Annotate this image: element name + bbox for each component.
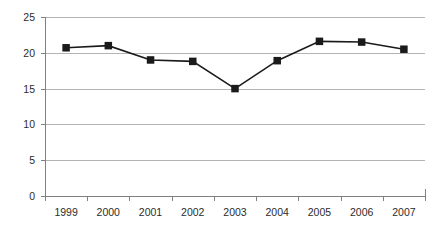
x-tick-mark-6 bbox=[298, 196, 299, 201]
x-tick-label-2002: 2002 bbox=[172, 206, 214, 218]
y-tick-mark-5 bbox=[41, 160, 45, 161]
x-tick-mark-5 bbox=[256, 196, 257, 201]
x-tick-mark-7 bbox=[341, 196, 342, 201]
y-tick-label-10: 10 bbox=[9, 119, 35, 129]
x-tick-label-2006: 2006 bbox=[341, 206, 383, 218]
x-tick-label-2004: 2004 bbox=[256, 206, 298, 218]
x-tick-mark-8 bbox=[383, 196, 384, 201]
gridline-15 bbox=[45, 89, 425, 90]
x-tick-label-2003: 2003 bbox=[214, 206, 256, 218]
x-tick-mark-0 bbox=[45, 196, 46, 201]
x-tick-mark-3 bbox=[172, 196, 173, 201]
plot-area bbox=[45, 17, 425, 196]
gridline-10 bbox=[45, 124, 425, 125]
y-tick-label-25: 25 bbox=[9, 12, 35, 22]
x-tick-label-2000: 2000 bbox=[87, 206, 129, 218]
y-tick-mark-10 bbox=[41, 124, 45, 125]
y-tick-label-20: 20 bbox=[9, 48, 35, 58]
x-tick-label-2005: 2005 bbox=[298, 206, 340, 218]
x-tick-mark-9 bbox=[425, 196, 426, 201]
gridline-5 bbox=[45, 160, 425, 161]
x-tick-mark-4 bbox=[214, 196, 215, 201]
y-tick-mark-25 bbox=[41, 17, 45, 18]
x-tick-mark-1 bbox=[87, 196, 88, 201]
y-axis-line bbox=[45, 17, 46, 197]
y-tick-label-0: 0 bbox=[9, 191, 35, 201]
x-tick-label-2007: 2007 bbox=[383, 206, 425, 218]
x-tick-label-2001: 2001 bbox=[129, 206, 171, 218]
line-chart: 25 20 15 10 5 0 1999 2000 2001 2002 2003… bbox=[0, 0, 440, 245]
y-tick-label-5: 5 bbox=[9, 155, 35, 165]
x-tick-label-1999: 1999 bbox=[45, 206, 87, 218]
gridline-20 bbox=[45, 53, 425, 54]
gridline-25 bbox=[45, 17, 425, 18]
x-tick-mark-2 bbox=[129, 196, 130, 201]
y-tick-mark-20 bbox=[41, 53, 45, 54]
y-tick-mark-15 bbox=[41, 89, 45, 90]
y-tick-label-15: 15 bbox=[9, 84, 35, 94]
x-axis-line bbox=[45, 196, 426, 197]
